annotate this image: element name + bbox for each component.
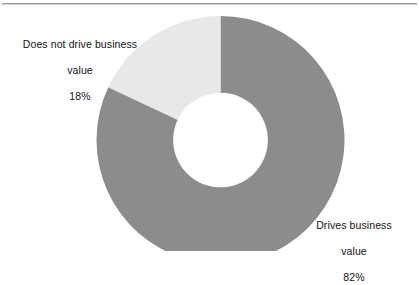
annotation-drives-business-value: Drives business value 82% [292, 206, 416, 285]
annotation-does-not-drive-business-value: Does not drive business value 18% [4, 25, 156, 116]
annotation-left-line-1: Does not drive business [4, 38, 156, 51]
annotation-right-line-1: Drives business [292, 219, 416, 232]
annotation-left-value: 18% [4, 90, 156, 103]
annotation-right-line-2: value [292, 245, 416, 258]
annotation-left-line-2: value [4, 64, 156, 77]
annotation-right-value: 82% [292, 271, 416, 284]
